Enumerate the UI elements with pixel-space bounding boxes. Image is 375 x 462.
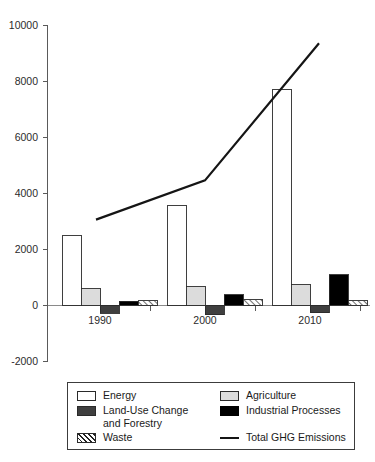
plot-area: 10000 8000 6000 4000 2000 0 -2000 bbox=[0, 0, 375, 372]
bar-industrial-processes-1990 bbox=[119, 301, 138, 305]
bar-waste-2010 bbox=[348, 301, 367, 306]
bar-agriculture-2000 bbox=[186, 287, 205, 306]
legend-label-land-use-change-and-forestry: Land-Use Change and Forestry bbox=[103, 404, 188, 429]
legend-item-total-ghg-emissions: Total GHG Emissions bbox=[220, 431, 346, 444]
legend-label-agriculture: Agriculture bbox=[246, 389, 296, 402]
bar-waste-1990 bbox=[138, 301, 157, 305]
bar-energy-2010 bbox=[272, 89, 291, 305]
legend-item-industrial-processes: Industrial Processes bbox=[220, 404, 341, 417]
agriculture-swatch bbox=[220, 391, 239, 401]
legend-item-energy: Energy bbox=[77, 389, 136, 402]
y-tick-label-10000: 10000 bbox=[9, 19, 38, 31]
land-use-change-swatch bbox=[77, 406, 96, 416]
y-tick-label-8000: 8000 bbox=[15, 75, 39, 87]
legend-label-energy: Energy bbox=[103, 389, 136, 402]
ghg-emissions-chart: 10000 8000 6000 4000 2000 0 -2000 bbox=[0, 0, 375, 462]
bar-group-2000 bbox=[167, 205, 262, 315]
bar-energy-2000 bbox=[167, 205, 186, 305]
x-tick-label-2010: 2010 bbox=[298, 314, 322, 326]
bar-agriculture-1990 bbox=[81, 289, 100, 306]
y-tick-label-2000: 2000 bbox=[15, 243, 39, 255]
x-tick-label-2000: 2000 bbox=[193, 314, 217, 326]
bar-agriculture-2010 bbox=[291, 285, 310, 305]
total-ghg-line-swatch bbox=[220, 433, 239, 443]
bar-industrial-processes-2010 bbox=[329, 275, 348, 305]
legend-item-waste: Waste bbox=[77, 431, 132, 444]
legend-label-industrial-processes: Industrial Processes bbox=[246, 404, 341, 417]
bar-group-2010 bbox=[272, 89, 367, 312]
y-tick-label-0: 0 bbox=[32, 299, 38, 311]
y-tick-marks bbox=[43, 26, 48, 362]
bar-waste-2000 bbox=[243, 300, 262, 305]
legend-item-agriculture: Agriculture bbox=[220, 389, 296, 402]
legend-item-land-use-change-and-forestry: Land-Use Change and Forestry bbox=[77, 404, 188, 429]
y-tick-label-4000: 4000 bbox=[15, 187, 39, 199]
bar-group-1990 bbox=[62, 235, 157, 313]
x-tick-label-1990: 1990 bbox=[88, 314, 112, 326]
chart-legend: Energy Land-Use Change and Forestry Wast… bbox=[67, 382, 355, 450]
y-tick-label--2000: -2000 bbox=[11, 355, 38, 367]
bar-energy-1990 bbox=[62, 235, 81, 305]
legend-label-waste: Waste bbox=[103, 431, 132, 444]
bar-land-use-change-2010 bbox=[310, 305, 329, 313]
waste-swatch bbox=[77, 433, 96, 443]
bar-land-use-change-1990 bbox=[100, 305, 119, 313]
energy-swatch bbox=[77, 391, 96, 401]
legend-label-total-ghg-emissions: Total GHG Emissions bbox=[246, 431, 346, 444]
industrial-processes-swatch bbox=[220, 406, 239, 416]
bar-industrial-processes-2000 bbox=[224, 295, 243, 305]
y-tick-label-6000: 6000 bbox=[15, 131, 39, 143]
